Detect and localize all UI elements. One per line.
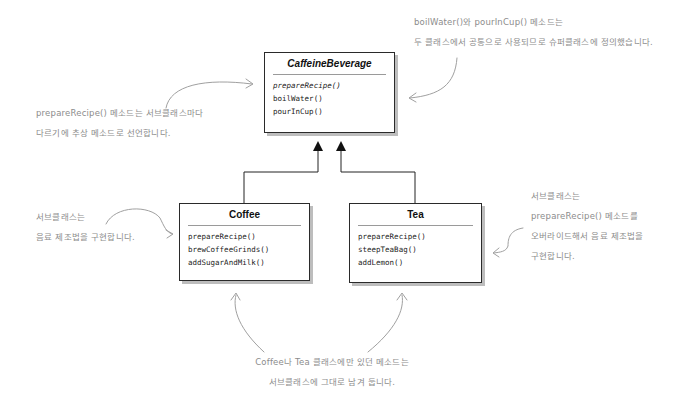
uml-diagram-canvas: CaffeineBeverage prepareRecipe() boilWat… xyxy=(0,0,693,408)
annotation-line: 서브클래스에 그대로 남겨 둡니다. xyxy=(222,372,442,392)
class-name: Coffee xyxy=(180,204,309,225)
method-list: prepareRecipe() boilWater() pourInCup() xyxy=(265,75,394,118)
method-item: prepareRecipe() xyxy=(273,79,394,92)
annotation-line: Coffee나 Tea 클래스에만 있던 메소드는 xyxy=(222,352,442,372)
class-box-caffeine-beverage: CaffeineBeverage prepareRecipe() boilWat… xyxy=(264,52,395,133)
annotation-line: 서브클래스는 xyxy=(36,207,135,227)
annotation-line: 오버라이드해서 음료 제조법을 xyxy=(531,226,643,246)
annotation-line: 서브클래스는 xyxy=(531,186,643,206)
annotation-line: boilWater()와 pourInCup() 메소드는 xyxy=(414,12,653,32)
method-item: boilWater() xyxy=(273,92,394,105)
annotation-arrow-bottom-to-tea xyxy=(368,295,403,352)
annotation-arrow-mid-right xyxy=(494,228,523,253)
annotation-line: 다르기에 추상 메소드로 선언합니다. xyxy=(36,123,203,143)
annotation-mid-left: 서브클래스는 음료 제조법을 구현합니다. xyxy=(36,207,135,247)
annotation-line: prepareRecipe() 메소드는 서브클래스마다 xyxy=(36,103,203,123)
class-name: Tea xyxy=(350,204,481,225)
inheritance-arrowhead-coffee xyxy=(313,141,323,151)
method-item: prepareRecipe() xyxy=(188,230,309,243)
method-item: addLemon() xyxy=(358,256,481,269)
method-item: addSugarAndMilk() xyxy=(188,256,309,269)
annotation-arrow-bottom-to-coffee xyxy=(235,295,264,352)
method-item: pourInCup() xyxy=(273,105,394,118)
annotation-top-right: boilWater()와 pourInCup() 메소드는 두 클래스에서 공통… xyxy=(414,12,653,52)
class-name: CaffeineBeverage xyxy=(265,53,394,74)
annotation-line: 두 클래스에서 공통으로 사용되므로 슈퍼클래스에 정의했습니다. xyxy=(414,32,653,52)
annotation-mid-right: 서브클래스는 prepareRecipe() 메소드를 오버라이드해서 음료 제… xyxy=(531,186,643,266)
method-item: brewCoffeeGrinds() xyxy=(188,243,309,256)
class-box-coffee: Coffee prepareRecipe() brewCoffeeGrinds(… xyxy=(179,203,310,281)
annotation-bottom: Coffee나 Tea 클래스에만 있던 메소드는 서브클래스에 그대로 남겨 … xyxy=(222,352,442,392)
inheritance-arrowhead-tea xyxy=(336,141,346,151)
method-item: steepTeaBag() xyxy=(358,243,481,256)
annotation-line: 구현합니다. xyxy=(531,246,643,266)
method-item: prepareRecipe() xyxy=(358,230,481,243)
class-box-tea: Tea prepareRecipe() steepTeaBag() addLem… xyxy=(349,203,482,283)
annotation-top-left: prepareRecipe() 메소드는 서브클래스마다 다르기에 추상 메소드… xyxy=(36,103,203,143)
annotation-line: 음료 제조법을 구현합니다. xyxy=(36,227,135,247)
inheritance-connector-tea xyxy=(341,150,415,203)
annotation-arrow-top-right xyxy=(410,58,457,98)
method-list: prepareRecipe() steepTeaBag() addLemon() xyxy=(350,226,481,269)
annotation-line: prepareRecipe() 메소드를 xyxy=(531,206,643,226)
method-list: prepareRecipe() brewCoffeeGrinds() addSu… xyxy=(180,226,309,269)
inheritance-connector-coffee xyxy=(244,150,318,203)
